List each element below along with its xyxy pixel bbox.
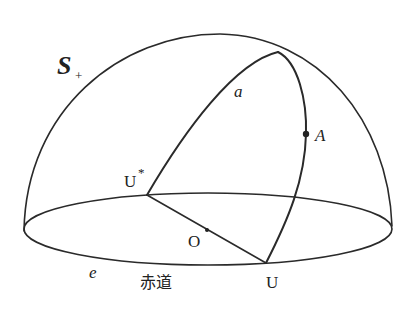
label-point-O: O [188,232,200,251]
label-point-U-star: U [124,172,136,191]
label-equator-name: 赤道 [140,273,172,292]
hemisphere-dome [24,34,392,231]
label-point-A: A [314,126,326,145]
arc-through-A [266,52,306,263]
label-point-U-star-sup: * [138,165,145,180]
label-hemisphere: S [57,51,71,80]
point-A-dot [303,131,309,137]
label-point-U: U [266,273,278,292]
label-great-circle-a: a [234,82,243,101]
hemisphere-diagram: S + a A U * O U e 赤道 [0,0,402,316]
label-equator-curve-e: e [89,263,97,282]
label-hemisphere-sub: + [75,68,82,83]
point-O-dot [205,228,209,232]
great-circle-a [147,52,278,195]
